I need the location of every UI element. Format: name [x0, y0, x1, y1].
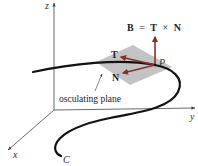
osculating-plane-diagram: z y x T N P C B = T × N osculating plane — [0, 0, 198, 166]
eq-t: T — [150, 22, 157, 33]
y-axis-label: y — [189, 111, 195, 122]
tangent-label: T — [111, 49, 118, 60]
curve-c-label: C — [63, 154, 70, 165]
point-p-label: P — [158, 57, 165, 68]
eq-times: × — [162, 22, 168, 33]
plane-pointer — [95, 74, 102, 91]
normal-label: N — [112, 72, 120, 83]
osculating-plane-label: osculating plane — [59, 94, 121, 104]
eq-equals: = — [139, 22, 145, 33]
binormal-equation: B = T × N — [127, 22, 182, 33]
eq-b: B — [127, 22, 134, 33]
x-axis — [8, 110, 54, 150]
point-p — [154, 64, 156, 66]
y-axis — [54, 108, 195, 110]
eq-n: N — [174, 22, 182, 33]
z-axis-label: z — [44, 0, 49, 11]
x-axis-label: x — [12, 149, 18, 160]
